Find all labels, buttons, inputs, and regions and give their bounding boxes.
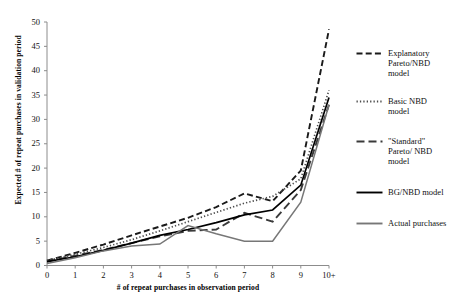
- x-tick-label: 5: [177, 270, 199, 280]
- series-line: [47, 105, 329, 264]
- y-tick-label: 0: [20, 260, 40, 270]
- legend-item-label: "Standard"Pareto/ NBDmodel: [388, 136, 432, 166]
- legend-line-swatch: [356, 219, 383, 228]
- x-tick-label: 10+: [318, 270, 340, 280]
- series-line: [47, 90, 329, 260]
- legend-item[interactable]: BG/NBD model: [356, 187, 444, 197]
- y-tick-label: 15: [20, 187, 40, 197]
- x-axis-title: # of repeat purchases in observation per…: [47, 283, 329, 292]
- y-tick-label: 35: [20, 90, 40, 100]
- y-tick-label: 20: [20, 163, 40, 173]
- y-tick-label: 30: [20, 114, 40, 124]
- legend-item[interactable]: Basic NBDmodel: [356, 96, 427, 116]
- x-tick-label: 7: [233, 270, 255, 280]
- legend-line-swatch: [356, 137, 383, 146]
- legend-item-label: BG/NBD model: [388, 187, 444, 197]
- y-tick-label: 10: [20, 211, 40, 221]
- legend-item[interactable]: ExplanatoryPareto/NBDmodel: [356, 48, 430, 78]
- x-tick-label: 9: [290, 270, 312, 280]
- y-tick-label: 45: [20, 41, 40, 51]
- legend-line-swatch: [356, 49, 383, 58]
- x-tick-label: 2: [92, 270, 114, 280]
- y-tick-label: 5: [20, 236, 40, 246]
- legend-item[interactable]: Actual purchases: [356, 218, 446, 228]
- x-tick-label: 3: [121, 270, 143, 280]
- legend-item-label: ExplanatoryPareto/NBDmodel: [388, 48, 430, 78]
- chart-figure: Expected # of repeat purchases in valida…: [0, 0, 460, 307]
- legend-item[interactable]: "Standard"Pareto/ NBDmodel: [356, 136, 432, 166]
- legend-item-label: Actual purchases: [388, 218, 446, 228]
- series-line: [47, 97, 329, 261]
- x-tick-label: 4: [149, 270, 171, 280]
- y-tick-label: 40: [20, 65, 40, 75]
- legend-item-label: Basic NBDmodel: [388, 96, 427, 116]
- legend-line-swatch: [356, 97, 383, 106]
- chart-series-lines: [47, 29, 329, 263]
- x-tick-label: 1: [64, 270, 86, 280]
- x-tick-label: 8: [262, 270, 284, 280]
- series-line: [47, 105, 329, 262]
- x-tick-label: 6: [205, 270, 227, 280]
- legend-line-swatch: [356, 188, 383, 197]
- x-tick-label: 0: [36, 270, 58, 280]
- y-tick-label: 50: [20, 17, 40, 27]
- y-tick-label: 25: [20, 138, 40, 148]
